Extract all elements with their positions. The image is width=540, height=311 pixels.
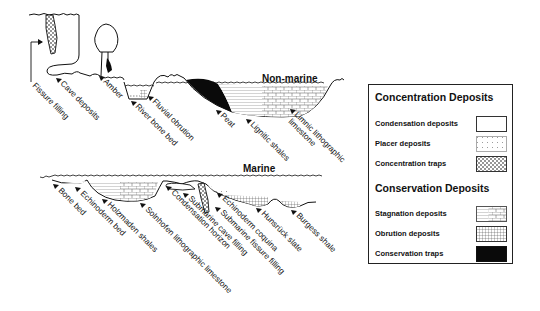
limnic-limestone-deposit: [262, 86, 328, 117]
sea-water-line: [40, 175, 322, 178]
condensation-horizon: [166, 183, 195, 190]
burgess-shale-deposit: [280, 201, 300, 207]
condensation-swatch-icon: [476, 116, 507, 132]
placer-swatch-icon: [476, 136, 507, 152]
label-lignitic-shales: Lignitic shales: [249, 120, 292, 163]
legend-label: Concentration traps: [375, 159, 446, 168]
label-peat: Peat: [219, 111, 238, 130]
legend-item-obrution: Obrution deposits: [375, 226, 507, 242]
non-marine-heading: Non-marine: [262, 73, 318, 84]
label-amber: Amber: [102, 77, 126, 101]
legend-heading-conservation: Conservation Deposits: [375, 182, 489, 194]
legend-label: Obrution deposits: [375, 229, 440, 238]
legend-item-stagnation: Stagnation deposits: [375, 206, 507, 222]
label-solnhofen-lithographic-limestone: Solnhofen lithographic limestone: [144, 205, 234, 295]
obrution-swatch-icon: [476, 226, 507, 242]
marine-heading: Marine: [243, 163, 276, 174]
legend-box: Concentration Deposits Condensation depo…: [368, 84, 513, 264]
legend-item-concentration-traps: Concentration traps: [375, 156, 507, 172]
legend-item-condensation: Condensation deposits: [375, 116, 507, 132]
conservation-traps-swatch-icon: [476, 246, 507, 262]
legend-label: Conservation traps: [375, 249, 443, 258]
fissure-filling: [46, 15, 57, 54]
legend-label: Condensation deposits: [375, 119, 458, 128]
stagnation-swatch-icon: [476, 206, 507, 222]
legend-heading-concentration: Concentration Deposits: [375, 91, 493, 103]
echinoderm-bed-deposit: [64, 181, 86, 184]
legend-item-placer: Placer deposits: [375, 136, 507, 152]
tree-crown: [95, 24, 118, 52]
solnhofen-limestone-deposit: [120, 182, 158, 201]
legend-item-conservation-traps: Conservation traps: [375, 246, 507, 262]
concentration-traps-swatch-icon: [476, 156, 507, 172]
fissure-pointer-line: [31, 42, 42, 82]
legend-label: Placer deposits: [375, 139, 430, 148]
fissure-cave-outline: [29, 14, 105, 79]
amber-blob: [106, 58, 112, 73]
legend-label: Stagnation deposits: [375, 209, 447, 218]
